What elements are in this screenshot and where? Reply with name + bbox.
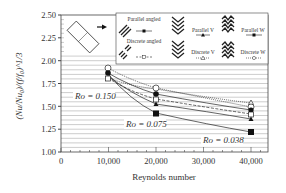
y-tick: 1.50 [41, 102, 56, 112]
y-tick: 2.00 [41, 56, 56, 66]
x-tick: 30,000 [192, 156, 215, 166]
legend-discrete-angled: Discrete angled [127, 38, 162, 44]
x-axis-label: Reynolds number [132, 172, 196, 182]
y-tick: 1.00 [41, 147, 56, 157]
x-tick: 0 [59, 156, 63, 166]
y-tick: 1.75 [41, 79, 56, 89]
y-tick: 1.25 [41, 124, 56, 134]
y-tick: 2.50 [41, 10, 56, 20]
y-tick: 2.25 [41, 33, 56, 43]
legend-discrete-w: Discrete W [241, 49, 267, 55]
x-tick: 40,000 [239, 156, 262, 166]
annotation-ro-0038: Ro = 0.038 [202, 135, 244, 145]
y-axis: 2.50 2.25 2.00 1.75 1.50 1.25 1.00 [41, 10, 61, 157]
legend-discrete-v: Discrete V [191, 49, 215, 55]
x-tick: 20,000 [144, 156, 167, 166]
legend-parallel-v: Parallel V [192, 27, 214, 33]
legend-parallel-w: Parallel W [241, 27, 265, 33]
channel-schematic-icon [64, 16, 116, 54]
legend: Parallel angled Discrete angled Parallel… [116, 13, 268, 64]
legend-parallel-angled: Parallel angled [128, 16, 161, 22]
x-tick: 10,000 [97, 156, 120, 166]
annotation-ro-0150: Ro = 0.150 [74, 91, 116, 101]
annotation-ro-0075: Ro = 0.075 [125, 119, 167, 129]
chart: 2.50 2.25 2.00 1.75 1.50 1.25 1.00 (Nu/N… [0, 0, 286, 193]
x-axis [61, 147, 261, 152]
y-axis-label: (Nu/Nu₀)/(f/f₀)^1/3 [14, 52, 24, 120]
